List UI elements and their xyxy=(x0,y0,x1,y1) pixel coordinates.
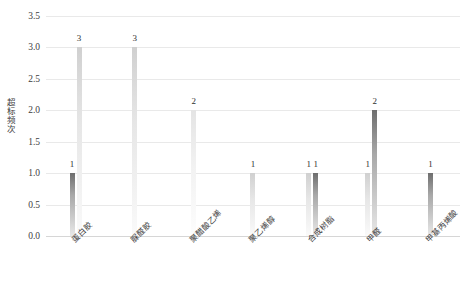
bar[interactable]: 2 xyxy=(191,110,196,236)
bar-group: 11 xyxy=(283,16,342,236)
bar[interactable]: 1 xyxy=(428,173,433,236)
y-axis-tick-label: 3.0 xyxy=(8,43,40,52)
bar-value-label: 3 xyxy=(132,34,137,43)
bar-value-label: 3 xyxy=(77,34,82,43)
bar-value-label: 1 xyxy=(428,160,433,169)
bar-value-label: 2 xyxy=(373,97,378,106)
bar-value-label: 1 xyxy=(306,160,311,169)
bar[interactable]: 3 xyxy=(132,47,137,236)
bar-group: 2 xyxy=(164,16,223,236)
bar-group: 3 xyxy=(105,16,164,236)
y-axis-tick-label: 3.5 xyxy=(8,12,40,21)
bar-chart: 超标频次 0.00.51.01.52.02.53.03.5 1332111121… xyxy=(0,0,474,296)
bar-value-label: 1 xyxy=(366,160,371,169)
y-axis-tick-labels: 0.00.51.01.52.02.53.03.5 xyxy=(8,16,40,236)
plot-area: 1332111121 xyxy=(46,16,460,236)
y-axis-tick-label: 1.0 xyxy=(8,169,40,178)
bar-group: 1 xyxy=(223,16,282,236)
bar[interactable]: 3 xyxy=(77,47,82,236)
bar[interactable]: 1 xyxy=(365,173,370,236)
bar[interactable]: 1 xyxy=(306,173,311,236)
y-axis-tick-label: 1.5 xyxy=(8,137,40,146)
bar-value-label: 1 xyxy=(313,160,318,169)
y-axis-tick-label: 2.5 xyxy=(8,74,40,83)
bar-group: 12 xyxy=(342,16,401,236)
bar[interactable]: 1 xyxy=(250,173,255,236)
y-axis-tick-label: 0.0 xyxy=(8,232,40,241)
bar-value-label: 2 xyxy=(192,97,197,106)
bar-group: 13 xyxy=(46,16,105,236)
x-axis-tick-labels: 蛋白胶脲醛胶聚醋酸乙烯聚乙烯醇合成树脂甲醛甲基丙烯酸 xyxy=(46,238,460,296)
bar-value-label: 1 xyxy=(251,160,256,169)
bar-value-label: 1 xyxy=(70,160,75,169)
y-axis-tick-label: 2.0 xyxy=(8,106,40,115)
bar[interactable]: 1 xyxy=(70,173,75,236)
y-axis-tick-label: 0.5 xyxy=(8,200,40,209)
bar[interactable]: 2 xyxy=(372,110,377,236)
bar-group: 1 xyxy=(401,16,460,236)
